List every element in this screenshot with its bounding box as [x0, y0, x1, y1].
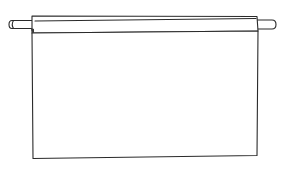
banner-illustration: [0, 0, 291, 169]
banner-sheet: [32, 31, 258, 159]
banner-roll: [31, 16, 258, 33]
rod-right-end: [257, 20, 276, 29]
